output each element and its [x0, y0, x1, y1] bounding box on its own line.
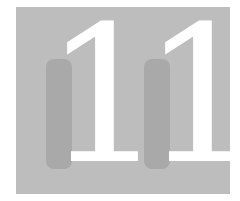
chapter-number-badge: 1 1 [16, 7, 230, 194]
chapter-digit-2: 1 [142, 1, 240, 191]
